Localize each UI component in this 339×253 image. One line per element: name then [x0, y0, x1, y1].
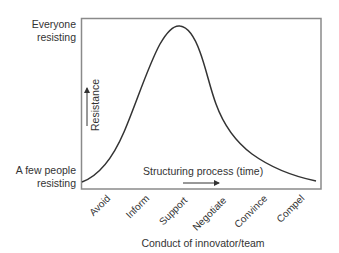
x-axis-title: Conduct of innovator/team — [141, 237, 264, 249]
resistance-curve — [82, 26, 316, 182]
x-category-avoid: Avoid — [87, 193, 112, 218]
y-top-label-line2: resisting — [37, 31, 76, 43]
x-category-negotiate: Negotiate — [190, 194, 228, 232]
x-category-support: Support — [157, 194, 190, 227]
resistance-diagram: Everyone resisting A few people resistin… — [0, 0, 339, 253]
y-top-label-line1: Everyone — [32, 18, 77, 30]
resistance-label: Resistance — [89, 79, 101, 131]
structuring-process-label: Structuring process (time) — [143, 165, 263, 177]
y-bottom-label-line2: resisting — [37, 177, 76, 189]
chart-frame — [82, 19, 322, 190]
x-category-inform: Inform — [124, 193, 152, 221]
x-category-convince: Convince — [232, 192, 270, 230]
y-bottom-label-line1: A few people — [16, 164, 76, 176]
x-category-compel: Compel — [274, 193, 306, 225]
